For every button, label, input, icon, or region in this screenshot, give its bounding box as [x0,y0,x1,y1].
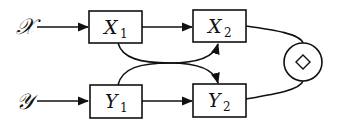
node-x1: X 1 [89,11,142,43]
edge-x1-merge [118,43,170,63]
node-y1-sub: 1 [120,101,128,115]
edge-merge-to-x2 [170,44,218,63]
node-x2-label: X [206,15,223,37]
node-x1-label: X [102,16,119,38]
node-y2: Y 2 [193,84,246,117]
node-y1: Y 1 [90,85,142,118]
node-y2-sub: 2 [223,100,231,114]
edge-x2-to-combiner [246,26,303,43]
node-x1-sub: 1 [120,27,128,41]
combiner-node [284,43,322,81]
edge-merge-to-y2 [170,63,218,83]
node-x2-sub: 2 [224,26,232,40]
input-label-y: 𝒴 [16,89,39,114]
edge-y2-to-combiner [246,81,303,99]
node-x2: X 2 [193,10,246,42]
diagram-canvas: 𝒳 𝒴 X 1 X 2 Y 1 Y 2 [0,0,340,123]
edge-y1-merge [118,63,170,85]
